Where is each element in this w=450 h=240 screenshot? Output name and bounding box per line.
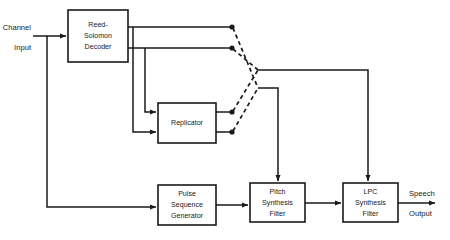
- label-input: Input: [14, 43, 32, 52]
- block-reed-solomon-decoder-line-2: Solomon: [84, 32, 112, 40]
- block-lpc-synthesis-filter-line-1: LPC: [364, 188, 378, 196]
- block-lpc-synthesis-filter[interactable]: LPC Synthesis Filter: [343, 183, 398, 222]
- wire-decoder-branch-to-replicator-upper-in: [145, 48, 156, 112]
- block-pitch-synthesis-filter-line-2: Synthesis: [262, 199, 293, 207]
- label-channel: Channel: [3, 23, 32, 32]
- block-lpc-synthesis-filter-line-3: Filter: [363, 210, 379, 218]
- block-pulse-sequence-generator-line-1: Pulse: [178, 190, 196, 198]
- block-reed-solomon-decoder-line-3: Decoder: [85, 43, 112, 51]
- wire-pole-upper-to-lpc-filter: [258, 70, 368, 181]
- block-pitch-synthesis-filter-line-3: Filter: [270, 210, 286, 218]
- block-lpc-synthesis-filter-line-2: Synthesis: [355, 199, 386, 207]
- block-pitch-synthesis-filter[interactable]: Pitch Synthesis Filter: [250, 183, 305, 222]
- block-pulse-sequence-generator-line-2: Sequence: [171, 201, 203, 209]
- block-reed-solomon-decoder[interactable]: Reed- Solomon Decoder: [68, 10, 128, 62]
- wire-pole-lower-to-pitch-filter: [258, 88, 278, 181]
- contact-dot-decoder-upper[interactable]: [229, 24, 234, 29]
- contact-dot-replicator-lower[interactable]: [229, 129, 234, 134]
- block-reed-solomon-decoder-line-1: Reed-: [88, 21, 108, 29]
- switch-blade-decoder-lower-to-lpc[interactable]: [233, 49, 258, 70]
- block-pulse-sequence-generator[interactable]: Pulse Sequence Generator: [158, 185, 216, 225]
- block-pulse-sequence-generator-line-3: Generator: [171, 212, 204, 220]
- label-speech: Speech: [409, 189, 435, 198]
- block-pitch-synthesis-filter-line-1: Pitch: [270, 188, 286, 196]
- switch-blade-replicator-upper-to-lpc[interactable]: [233, 70, 258, 111]
- block-diagram-canvas: Reed- Solomon Decoder Replicator Pulse S…: [0, 0, 450, 240]
- block-replicator[interactable]: Replicator: [158, 103, 216, 143]
- switch-blade-replicator-lower-to-pitch[interactable]: [233, 88, 258, 131]
- label-output: Output: [409, 209, 433, 218]
- contact-dot-replicator-upper[interactable]: [229, 109, 234, 114]
- block-diagram-svg: Reed- Solomon Decoder Replicator Pulse S…: [0, 0, 450, 240]
- switch-blade-decoder-upper-to-pitch[interactable]: [233, 28, 258, 88]
- block-replicator-line-1: Replicator: [171, 119, 204, 127]
- contact-dot-decoder-lower[interactable]: [229, 45, 234, 50]
